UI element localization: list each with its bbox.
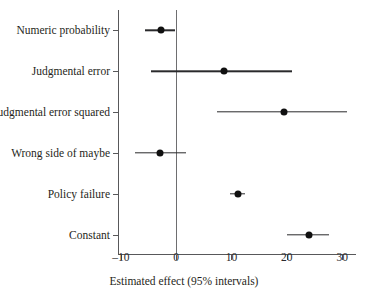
y-axis-spine bbox=[118, 10, 119, 255]
category-label: Policy failure bbox=[48, 187, 110, 200]
x-tick-label: 10 bbox=[226, 251, 238, 264]
x-axis-title: Estimated effect (95% intervals) bbox=[0, 274, 368, 288]
forest-plot-figure: Numeric probabilityJudgmental errorJudgm… bbox=[0, 0, 368, 298]
category-label: Wrong side of maybe bbox=[11, 146, 110, 159]
y-tick bbox=[113, 71, 118, 72]
category-label: Judgmental error bbox=[32, 65, 110, 78]
y-tick bbox=[113, 112, 118, 113]
estimate-point bbox=[234, 190, 241, 197]
x-tick-label: 0 bbox=[173, 251, 179, 264]
estimate-point bbox=[281, 109, 288, 116]
category-label: Constant bbox=[69, 228, 110, 241]
zero-reference-line bbox=[176, 10, 177, 255]
y-tick bbox=[113, 153, 118, 154]
plot-area bbox=[118, 10, 356, 255]
x-tick-label: 20 bbox=[281, 251, 293, 264]
y-tick bbox=[113, 235, 118, 236]
y-tick bbox=[113, 194, 118, 195]
estimate-point bbox=[305, 231, 312, 238]
y-tick bbox=[113, 30, 118, 31]
category-label: Judgmental error squared bbox=[0, 106, 110, 119]
estimate-point bbox=[157, 149, 164, 156]
estimate-point bbox=[221, 68, 228, 75]
x-tick-label: –10 bbox=[112, 251, 129, 264]
x-tick-label: 30 bbox=[336, 251, 348, 264]
category-label: Numeric probability bbox=[16, 24, 110, 37]
estimate-point bbox=[158, 27, 165, 34]
